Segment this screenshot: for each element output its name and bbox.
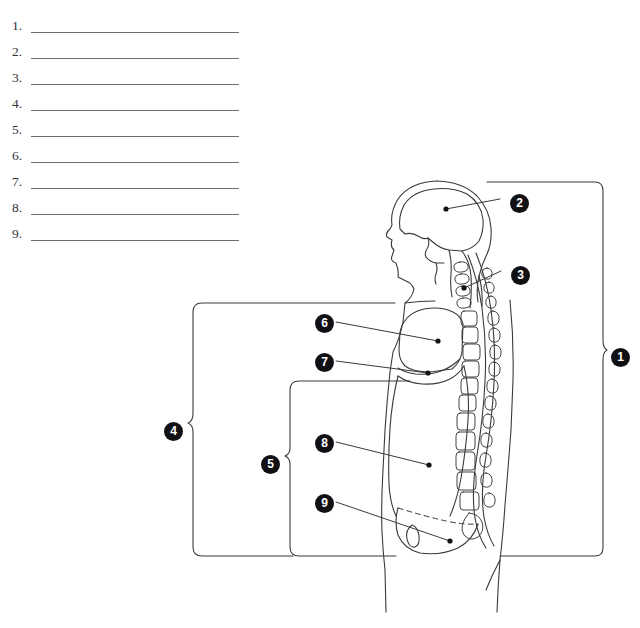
worksheet-page: · · · · · · · 1. 2. 3. 4. 5. 6. 7.: [0, 0, 640, 628]
list-item[interactable]: 2.: [12, 44, 262, 70]
answer-number: 4.: [12, 96, 22, 112]
callout-badge-5[interactable]: 5: [261, 455, 280, 474]
clipped-header-text: · · · · · · ·: [96, 0, 164, 3]
callout-badge-1[interactable]: 1: [611, 348, 630, 367]
brace-5-path: [285, 381, 410, 556]
abdominopelvic-divider-path: [398, 508, 478, 524]
list-item[interactable]: 8.: [12, 200, 262, 226]
list-item[interactable]: 9.: [12, 226, 262, 252]
answer-blank-line[interactable]: [31, 162, 239, 163]
answer-number: 6.: [12, 148, 22, 164]
callout-badge-4[interactable]: 4: [164, 422, 183, 441]
callout-badge-3[interactable]: 3: [511, 266, 530, 285]
answer-blank-line[interactable]: [31, 188, 239, 189]
answer-number: 5.: [12, 122, 22, 138]
answer-number: 8.: [12, 200, 22, 216]
list-item[interactable]: 1.: [12, 18, 262, 44]
list-item[interactable]: 6.: [12, 148, 262, 174]
answer-number: 9.: [12, 226, 22, 242]
body-outline-path: [382, 181, 514, 612]
abdominal-cavity-path: [389, 366, 469, 516]
vertebral-bodies-path: [454, 262, 483, 539]
leader-line-7: [336, 361, 431, 376]
callout-badge-7[interactable]: 7: [315, 353, 334, 372]
spinous-processes-path: [480, 268, 501, 507]
thoracic-cavity-path: [399, 308, 463, 372]
callout-badge-6[interactable]: 6: [315, 314, 334, 333]
answer-blank-line[interactable]: [31, 214, 239, 215]
cranial-cavity-path: [400, 189, 484, 257]
answer-number: 2.: [12, 44, 22, 60]
brace-4-path: [188, 303, 395, 556]
pelvic-cavity-path: [396, 508, 478, 554]
answer-blank-line[interactable]: [31, 32, 239, 33]
leader-line-6: [336, 322, 441, 344]
airway-path: [462, 251, 482, 308]
answer-blank-line[interactable]: [31, 136, 239, 137]
answer-number: 3.: [12, 70, 22, 86]
answer-list: 1. 2. 3. 4. 5. 6. 7. 8.: [12, 18, 262, 252]
callout-badge-9[interactable]: 9: [315, 494, 334, 513]
answer-blank-line[interactable]: [31, 240, 239, 241]
callout-badge-2[interactable]: 2: [510, 194, 529, 213]
diaphragm-path: [398, 359, 464, 384]
answer-blank-line[interactable]: [31, 84, 239, 85]
facial-cavity-path: [426, 250, 452, 297]
answer-blank-line[interactable]: [31, 110, 239, 111]
list-item[interactable]: 4.: [12, 96, 262, 122]
leader-line-8: [336, 442, 432, 468]
answer-number: 1.: [12, 18, 22, 34]
leader-line-2: [443, 199, 500, 212]
list-item[interactable]: 7.: [12, 174, 262, 200]
leader-line-9: [336, 502, 453, 544]
brace-1-path: [487, 182, 607, 556]
spinal-canal-path: [468, 253, 495, 548]
list-item[interactable]: 5.: [12, 122, 262, 148]
callout-badge-8[interactable]: 8: [315, 434, 334, 453]
answer-blank-line[interactable]: [31, 58, 239, 59]
answer-number: 7.: [12, 174, 22, 190]
clipped-header-strip: · · · · · · ·: [0, 0, 640, 14]
list-item[interactable]: 3.: [12, 70, 262, 96]
leader-line-3: [461, 271, 501, 291]
